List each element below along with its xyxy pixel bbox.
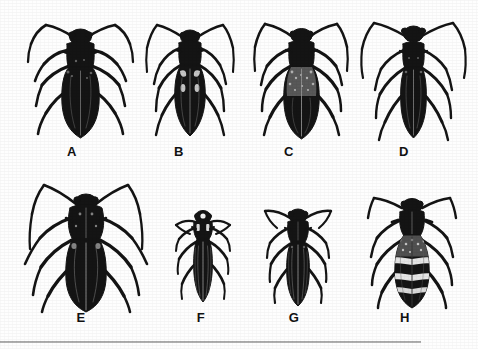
specimen-label-g: G — [279, 311, 309, 325]
specimen-label-f: F — [186, 311, 216, 325]
specimen-g-illustration — [258, 202, 338, 310]
specimen-label-b: B — [164, 145, 194, 159]
specimen-f-illustration — [168, 206, 238, 308]
beetle-specimen-plate: A — [0, 0, 478, 349]
specimen-b — [140, 18, 240, 146]
specimen-h-illustration — [354, 190, 470, 312]
specimen-label-h: H — [390, 311, 420, 325]
specimen-e — [14, 176, 158, 314]
specimen-label-d: D — [389, 145, 419, 159]
bottom-horizontal-rule — [0, 341, 421, 343]
specimen-d — [356, 14, 472, 148]
specimen-a-illustration — [20, 16, 140, 146]
specimen-e-illustration — [14, 176, 158, 314]
specimen-label-e: E — [66, 311, 96, 325]
specimen-c-illustration — [246, 16, 358, 146]
specimen-f — [168, 206, 238, 308]
specimen-label-c: C — [274, 145, 304, 159]
specimen-c — [246, 16, 358, 146]
specimen-h — [354, 190, 470, 312]
specimen-a — [20, 16, 140, 146]
specimen-d-illustration — [356, 14, 472, 148]
specimen-b-illustration — [140, 18, 240, 146]
specimen-g — [258, 202, 338, 310]
specimen-label-a: A — [57, 145, 87, 159]
